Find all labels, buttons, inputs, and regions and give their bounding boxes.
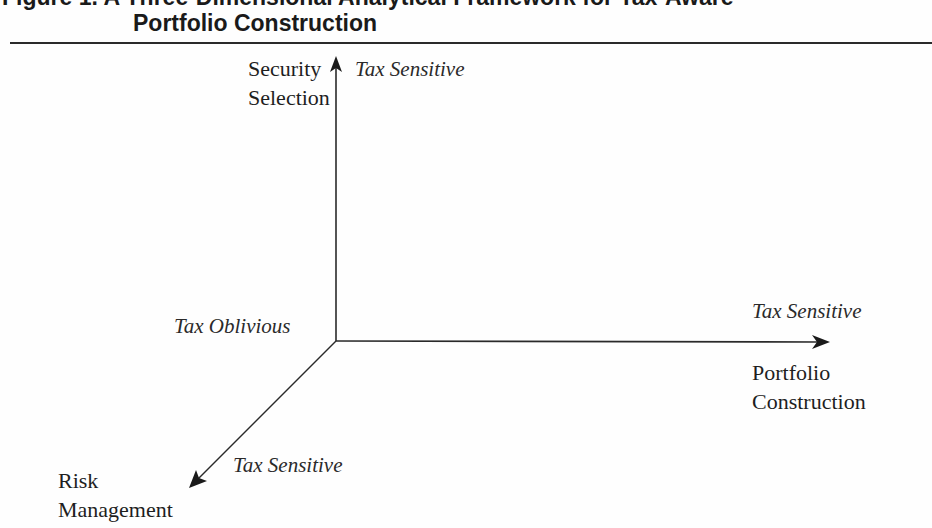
axis-name-line1: Portfolio [752, 358, 866, 387]
tax-oblivious-label: Tax Oblivious [174, 312, 290, 340]
security-selection-label: Security Selection [248, 54, 330, 112]
axis-name-line2: Selection [248, 83, 330, 112]
axes-diagram [0, 0, 932, 528]
vertical-tax-sensitive-label: Tax Sensitive [355, 55, 464, 83]
axis-name-line2: Construction [752, 387, 866, 416]
axis-name-line1: Security [248, 54, 330, 83]
axis-name-line2: Management [58, 495, 173, 524]
vertical-axis-arrow [330, 56, 342, 341]
horizontal-axis-arrow [336, 335, 830, 349]
axis-name-line1: Risk [58, 466, 173, 495]
risk-management-label: Risk Management [58, 466, 173, 524]
portfolio-construction-label: Portfolio Construction [752, 358, 866, 416]
horizontal-tax-sensitive-label: Tax Sensitive [752, 297, 861, 325]
diagonal-tax-sensitive-label: Tax Sensitive [233, 451, 342, 479]
